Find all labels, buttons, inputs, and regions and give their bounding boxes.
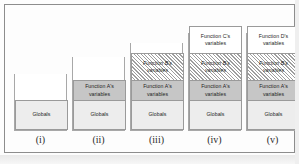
column-caption: (i) bbox=[14, 134, 67, 145]
stack-container-outline: Function D's variablesFunction B's varia… bbox=[246, 33, 299, 131]
stack-frame-label: Function B's variables bbox=[250, 60, 297, 74]
column-caption: (v) bbox=[246, 134, 299, 145]
stack-frame-globals: Globals bbox=[189, 100, 242, 130]
stack-frame-globals: Globals bbox=[131, 100, 184, 130]
stack-frame-globals: Globals bbox=[15, 100, 68, 130]
stack-frame-label: Function A's variables bbox=[134, 83, 181, 97]
stack-frame-a: Function A's variables bbox=[189, 80, 242, 101]
column-caption: (iii) bbox=[130, 134, 183, 145]
stack-frame-b: Function B's variables bbox=[131, 53, 184, 81]
stack-frame-label: Function A's variables bbox=[192, 83, 239, 97]
stack-frames: Function B's variablesFunction A's varia… bbox=[131, 54, 184, 130]
stack-frame-label: Function A's variables bbox=[250, 83, 297, 97]
column-caption: (iv) bbox=[188, 134, 241, 145]
stack-frames: Function D's variablesFunction B's varia… bbox=[247, 27, 299, 130]
stack-frame-label: Function B's variables bbox=[192, 60, 239, 74]
stack-frame-label: Globals bbox=[149, 111, 167, 118]
stack-frame-label: Globals bbox=[207, 111, 225, 118]
stack-column: Function D's variablesFunction B's varia… bbox=[246, 0, 299, 164]
stack-frame-a: Function A's variables bbox=[247, 80, 299, 101]
stack-frame-label: Globals bbox=[33, 111, 51, 118]
stack-frame-b: Function B's variables bbox=[247, 53, 299, 81]
page-shadow-right bbox=[295, 0, 299, 164]
stack-frames: Globals bbox=[15, 101, 68, 130]
page-shadow-bottom bbox=[0, 155, 299, 164]
stack-container-outline: Function A's variablesGlobals bbox=[72, 57, 125, 131]
stack-frame-d: Function D's variables bbox=[247, 26, 299, 54]
stack-frame-label: Globals bbox=[91, 111, 109, 118]
stack-frames: Function A's variablesGlobals bbox=[73, 81, 126, 130]
stack-frame-label: Function C's variables bbox=[192, 33, 239, 47]
stack-column: Globals(i) bbox=[14, 0, 67, 164]
stack-container-outline: Function B's variablesFunction A's varia… bbox=[130, 43, 183, 131]
stack-frame-c: Function C's variables bbox=[189, 26, 242, 54]
column-caption: (ii) bbox=[72, 134, 125, 145]
stack-frame-a: Function A's variables bbox=[73, 80, 126, 101]
call-stack-figure: Globals(i)Function A's variablesGlobals(… bbox=[0, 0, 299, 164]
stack-column: Function C's variablesFunction B's varia… bbox=[188, 0, 241, 164]
stack-frame-globals: Globals bbox=[247, 100, 299, 130]
stack-frame-label: Function B's variables bbox=[134, 60, 181, 74]
stack-container-outline: Globals bbox=[14, 74, 67, 131]
stack-frame-a: Function A's variables bbox=[131, 80, 184, 101]
stack-frame-b: Function B's variables bbox=[189, 53, 242, 81]
stack-column: Function A's variablesGlobals(ii) bbox=[72, 0, 125, 164]
stack-frame-globals: Globals bbox=[73, 100, 126, 130]
stack-frame-label: Function A's variables bbox=[76, 83, 123, 97]
stack-container-outline: Function C's variablesFunction B's varia… bbox=[188, 33, 241, 131]
stack-frames: Function C's variablesFunction B's varia… bbox=[189, 27, 242, 130]
stack-frame-label: Globals bbox=[265, 111, 283, 118]
stack-column: Function B's variablesFunction A's varia… bbox=[130, 0, 183, 164]
stack-frame-label: Function D's variables bbox=[250, 33, 297, 47]
